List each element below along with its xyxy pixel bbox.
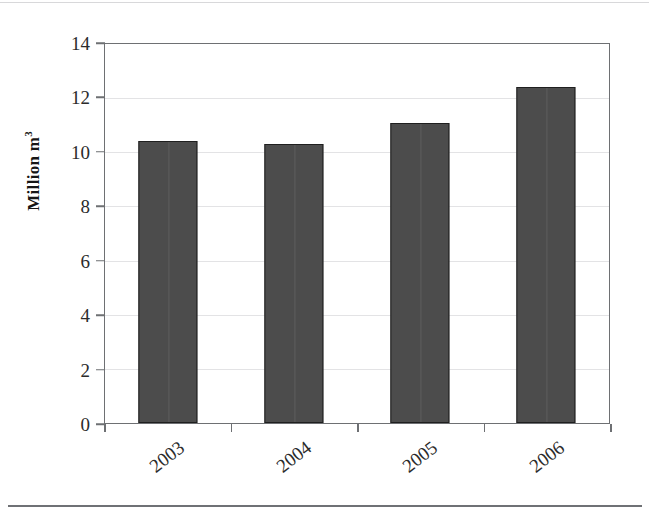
bar-slot [231, 44, 357, 423]
y-tick-label: 4 [81, 306, 91, 325]
bar-2005[interactable] [390, 123, 449, 423]
x-tick-mark [610, 424, 612, 432]
y-axis-ticks: 14 12 10 8 6 4 2 0 [0, 43, 104, 424]
x-tick-label-2006: 2006 [525, 437, 568, 478]
x-tick-label-2004: 2004 [272, 437, 315, 478]
bar-slot [357, 44, 483, 423]
bar-seam [168, 142, 169, 422]
plot-area [104, 43, 610, 424]
figure-canvas: Million m3 14 12 10 8 6 4 2 0 200320 [0, 0, 649, 520]
y-tick-label: 8 [81, 197, 91, 216]
bar-slot [105, 44, 231, 423]
x-tick-mark [104, 424, 106, 432]
x-tick-label-2005: 2005 [399, 437, 442, 478]
bottom-divider-rule [8, 505, 642, 507]
x-label-slot: 2003 [104, 432, 231, 492]
bar-series [105, 44, 609, 423]
x-tick-mark [231, 424, 233, 432]
x-tick-mark [357, 424, 359, 432]
bar-2006[interactable] [516, 87, 575, 423]
bar-seam [546, 88, 547, 422]
x-label-slot: 2004 [231, 432, 358, 492]
top-divider-rule [0, 2, 649, 3]
bar-seam [420, 124, 421, 422]
y-tick-label: 2 [81, 360, 91, 379]
y-tick-label: 0 [81, 415, 91, 434]
y-tick-label: 14 [71, 34, 90, 53]
bar-2004[interactable] [264, 144, 323, 423]
bar-seam [294, 145, 295, 422]
x-label-slot: 2006 [484, 432, 611, 492]
bar-slot [483, 44, 609, 423]
x-axis-labels: 2003200420052006 [104, 432, 610, 492]
y-tick-label: 10 [71, 142, 90, 161]
y-tick-label: 6 [81, 251, 91, 270]
x-tick-label-2003: 2003 [146, 437, 189, 478]
y-tick-label: 12 [71, 88, 90, 107]
x-label-slot: 2005 [357, 432, 484, 492]
x-tick-mark [484, 424, 486, 432]
bar-2003[interactable] [138, 141, 197, 423]
